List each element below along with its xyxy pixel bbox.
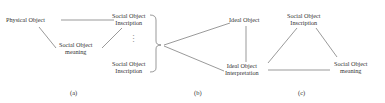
node-social-object-inscription-c: Social Object Inscription	[287, 12, 321, 26]
edge-meaning-to-inscription	[102, 28, 122, 48]
node-label-line1: Social Object	[334, 60, 368, 67]
caption-label: (c)	[298, 89, 305, 96]
node-label-line1: Social Object	[59, 41, 93, 48]
node-label-line2: meaning	[334, 67, 368, 74]
caption-b: (b)	[194, 89, 202, 96]
ellipsis-glyph: ⋮	[129, 34, 138, 44]
caption-c: (c)	[298, 89, 305, 96]
node-label-line1: Social Object	[112, 60, 146, 67]
node-social-object-inscription-bottom: Social Object Inscription	[112, 60, 146, 74]
edge-physical-to-meaning	[39, 27, 56, 48]
edge-interpretation-to-inscription	[268, 28, 297, 63]
brace	[150, 15, 161, 72]
ellipsis-vertical: ⋮	[129, 34, 138, 44]
diagram-edges	[0, 0, 385, 103]
node-label: Physical Object	[6, 16, 45, 23]
node-label-line1: Social Object	[287, 12, 321, 19]
node-label-line2: Interpretation	[225, 69, 259, 76]
node-label-line1: Social Object	[112, 12, 146, 19]
edge-brace-to-ideal-object	[164, 23, 230, 45]
node-ideal-object-interpretation: Ideal Object Interpretation	[225, 62, 259, 76]
node-social-object-meaning-a: Social Object meaning	[59, 41, 93, 55]
node-label-line1: Ideal Object	[225, 62, 259, 69]
node-label-line2: meaning	[59, 48, 93, 55]
caption-label: (b)	[194, 89, 202, 96]
edge-brace-to-interpretation	[164, 46, 224, 71]
node-physical-object: Physical Object	[6, 16, 45, 23]
caption-a: (a)	[70, 89, 77, 96]
node-label: Ideal Object	[229, 16, 259, 23]
node-social-object-meaning-c: Social Object meaning	[334, 60, 368, 74]
node-label-line2: Inscription	[112, 19, 146, 26]
node-label-line2: Inscription	[112, 67, 146, 74]
node-social-object-inscription-top: Social Object Inscription	[112, 12, 146, 26]
edge-inscription-to-meaning	[316, 28, 337, 57]
caption-label: (a)	[70, 89, 77, 96]
node-label-line2: Inscription	[287, 19, 321, 26]
node-ideal-object: Ideal Object	[229, 16, 259, 23]
